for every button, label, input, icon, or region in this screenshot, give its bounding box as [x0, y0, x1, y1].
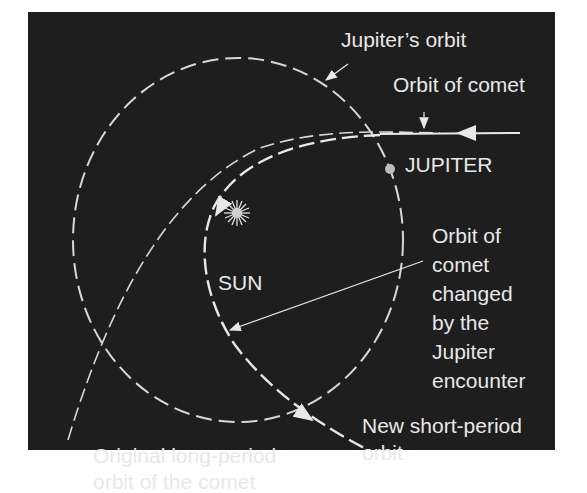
changed-orbit-line: encounter: [432, 368, 525, 394]
changed-orbit-line: Orbit of: [432, 223, 525, 249]
comet-orbit-label: Orbit of comet: [393, 72, 525, 98]
jupiter-orbit-label: Jupiter’s orbit: [341, 27, 466, 53]
jupiter-planet-icon: [385, 164, 395, 174]
changed-orbit-line: changed: [432, 281, 525, 307]
sun-label: SUN: [218, 270, 262, 296]
jupiter-orbit-path: [73, 58, 403, 422]
changed-orbit-line: Jupiter: [432, 339, 525, 365]
incoming-comet-path: [380, 133, 520, 134]
new-orbit-arrow-icon: [216, 205, 222, 215]
sun-icon: [224, 200, 250, 226]
original-orbit-label-1: Original long-period: [93, 443, 276, 469]
jupiter-label: JUPITER: [405, 152, 493, 178]
changed-orbit-label: Orbit of comet changed by the Jupiter en…: [432, 223, 525, 394]
new-orbit-label-2: orbit: [362, 440, 403, 466]
original-orbit-label-2: orbit of the comet: [93, 469, 255, 493]
jupiter-orbit-leader: [326, 64, 348, 80]
changed-orbit-line: comet: [432, 252, 525, 278]
new-orbit-label-1: New short-period: [362, 413, 522, 439]
changed-orbit-line: by the: [432, 310, 525, 336]
